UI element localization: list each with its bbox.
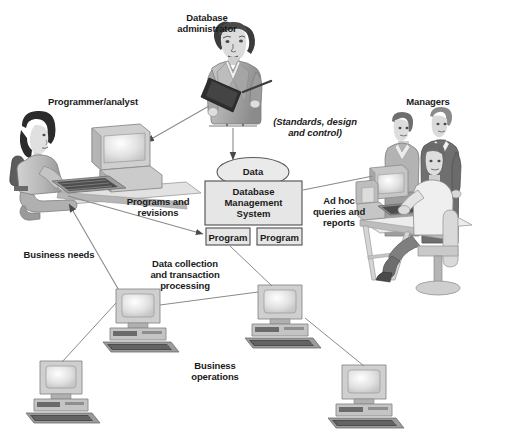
arrow-dba-to-programmer: [146, 106, 209, 142]
label-ad-hoc-queries-and-reports: Ad hoc queries and reports: [307, 195, 371, 228]
label-database-administrator: Database administrator: [152, 12, 262, 34]
label-standards-design-control: (Standards, design and control): [257, 116, 373, 138]
label-programmer-analyst: Programmer/analyst: [28, 96, 158, 107]
node-label-data: Data: [218, 166, 288, 177]
label-programs-and-revisions: Programs and revisions: [113, 196, 203, 218]
diagram-canvas: Database administrator Programmer/analys…: [0, 0, 506, 444]
node-label-program-left: Program: [206, 232, 250, 243]
figure-workstation-2: [245, 285, 321, 348]
figure-database-administrator: [201, 21, 271, 126]
label-managers: Managers: [388, 96, 468, 107]
link-workstation1-workstation2: [160, 292, 258, 305]
node-label-dbms: Database Management System: [205, 186, 302, 219]
label-business-operations: Business operations: [160, 360, 270, 382]
link-workstation1-workstation3: [62, 303, 116, 362]
figure-workstation-1: [103, 289, 179, 352]
link-program-to-workstation2: [230, 246, 272, 286]
figure-workstation-4: [328, 365, 404, 428]
label-business-needs: Business needs: [14, 249, 104, 260]
figure-workstation-3: [26, 361, 100, 423]
node-label-program-right: Program: [257, 232, 302, 243]
label-data-collection-and-transaction-processing: Data collection and transaction processi…: [138, 258, 232, 291]
figure-managers-group: [356, 107, 472, 295]
